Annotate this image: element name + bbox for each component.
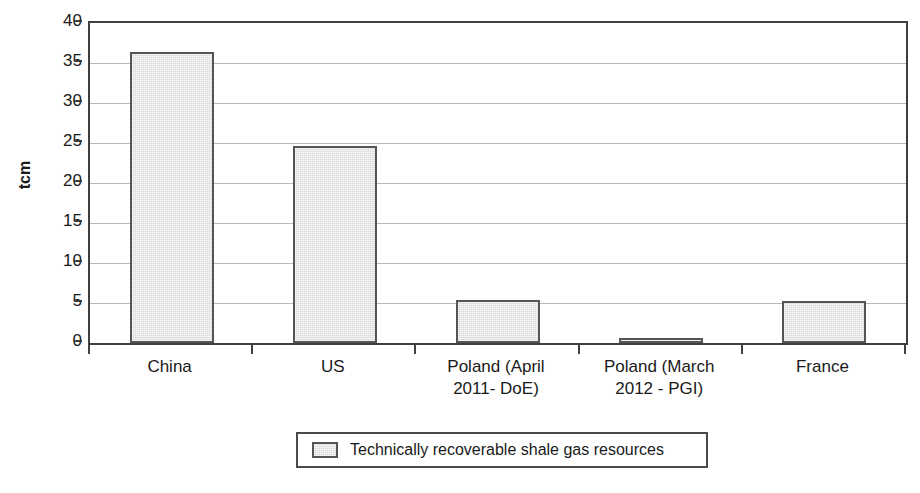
bar [456,300,540,343]
x-axis-label-line: Poland (April [414,356,577,378]
legend-entry-label: Technically recoverable shale gas resour… [350,441,664,459]
x-axis-tick-mark [251,343,253,354]
x-axis-tick-mark [414,343,416,354]
x-axis-label-line: China [88,356,251,378]
x-axis-label-line: 2011- DoE) [414,378,577,400]
x-axis-category-label: France [741,356,904,378]
bar-chart: tcm 4035302520151050 ChinaUSPoland (Apri… [0,0,920,493]
y-axis-tick-mark [74,140,82,142]
bar [782,301,866,343]
x-axis-label-line: 2012 - PGI) [578,378,741,400]
x-axis-label-line: Poland (March [578,356,741,378]
y-axis-tick-mark [74,300,82,302]
y-axis-tick-mark [74,60,82,62]
x-axis-label-line: US [251,356,414,378]
x-axis-label-line: France [741,356,904,378]
x-axis-category-label: US [251,356,414,378]
y-axis-tick-mark [74,220,82,222]
legend-swatch-icon [312,442,338,458]
x-axis-category-label: Poland (March2012 - PGI) [578,356,741,400]
x-axis-tick-mark [88,343,90,354]
x-axis-tick-mark [904,343,906,354]
y-axis-tick-mark [74,260,82,262]
x-axis-tick-mark [578,343,580,354]
x-axis-category-label: Poland (April2011- DoE) [414,356,577,400]
legend: Technically recoverable shale gas resour… [296,432,708,468]
y-axis-tick-mark [74,180,82,182]
plot-area [88,21,908,345]
bar [619,338,703,343]
y-axis-tick-mark [74,20,82,22]
y-axis-tick-mark [74,340,82,342]
y-axis-tick-group: 4035302520151050 [26,21,82,341]
x-axis-tick-mark [741,343,743,354]
x-axis-category-label: China [88,356,251,378]
bar [293,146,377,343]
y-axis-tick-mark [74,100,82,102]
bar [130,52,214,343]
